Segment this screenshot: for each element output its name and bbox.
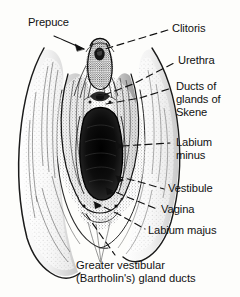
leader-labium-minus bbox=[122, 143, 170, 146]
leader-vagina bbox=[106, 188, 157, 209]
caption-greater-vestibular-gland-ducts: Greater vestibular (Bartholin's) gland d… bbox=[76, 259, 196, 286]
anatomical-figure: Prepuce Clitoris Urethra Ducts of glands… bbox=[0, 0, 240, 297]
label-prepuce: Prepuce bbox=[28, 16, 69, 29]
leader-arrowheads bbox=[94, 142, 124, 209]
label-ducts-of-glands-of-skene: Ducts of glands of Skene bbox=[176, 80, 221, 120]
leader-prepuce bbox=[54, 36, 84, 51]
label-clitoris: Clitoris bbox=[172, 22, 205, 35]
label-urethra: Urethra bbox=[178, 54, 215, 67]
label-labium-minus: Labium minus bbox=[176, 136, 212, 162]
label-labium-majus: Labium majus bbox=[148, 224, 216, 237]
leader-bartholin bbox=[86, 214, 115, 255]
label-vagina: Vagina bbox=[161, 203, 194, 216]
leader-vestibule bbox=[116, 176, 164, 189]
label-vestibule: Vestibule bbox=[168, 182, 213, 195]
leader-clitoris bbox=[95, 30, 168, 52]
